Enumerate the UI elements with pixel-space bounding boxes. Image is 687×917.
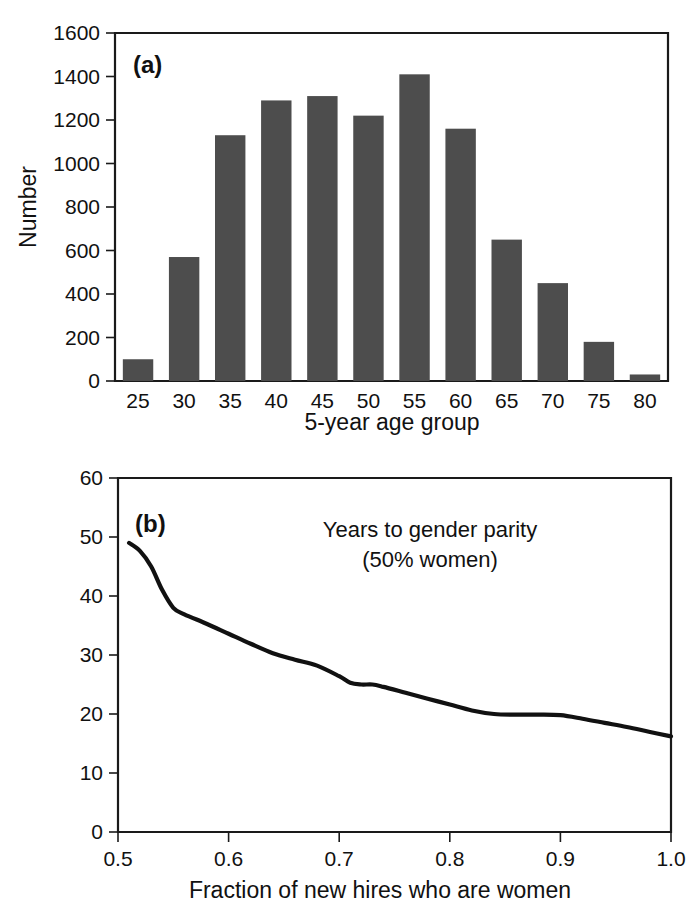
figure-container: 02004006008001000120014001600 2530354045… <box>0 0 687 917</box>
panel-b-y-ticks: 0102030405060 <box>80 466 118 843</box>
panel-a-bar <box>353 116 383 381</box>
panel-a-y-axis-title: Number <box>15 166 41 248</box>
panel-a-x-tick-label: 65 <box>495 389 518 412</box>
panel-a-svg: 02004006008001000120014001600 2530354045… <box>0 0 687 460</box>
panel-a-bar <box>630 374 660 381</box>
panel-b-line-chart: 0102030405060 0.50.60.70.80.91.0 Years t… <box>0 460 687 917</box>
panel-a-y-ticks: 02004006008001000120014001600 <box>53 21 115 392</box>
panel-a-bar <box>538 283 568 381</box>
panel-a-y-tick-label: 600 <box>65 239 100 262</box>
panel-b-svg: 0102030405060 0.50.60.70.80.91.0 Years t… <box>0 460 687 917</box>
panel-a-x-tick-label: 25 <box>126 389 149 412</box>
panel-a-x-axis-title: 5-year age group <box>304 409 479 435</box>
panel-a-y-tick-label: 1600 <box>53 21 100 44</box>
panel-a-bar <box>261 100 291 381</box>
panel-a-x-tick-label: 30 <box>172 389 195 412</box>
panel-a-x-tick-label: 40 <box>265 389 288 412</box>
panel-a-bar <box>492 240 522 381</box>
panel-a-bar <box>123 359 153 381</box>
panel-a-y-tick-label: 400 <box>65 282 100 305</box>
panel-a-y-tick-label: 1000 <box>53 152 100 175</box>
panel-b-y-tick-label: 20 <box>80 702 103 725</box>
panel-a-bar <box>584 342 614 381</box>
panel-b-annotation-line2: (50% women) <box>362 547 498 572</box>
panel-a-bar <box>399 74 429 381</box>
panel-b-x-tick-label: 0.5 <box>103 847 132 870</box>
panel-b-x-tick-label: 0.9 <box>546 847 575 870</box>
panel-b-y-tick-label: 0 <box>91 820 103 843</box>
panel-b-y-tick-label: 40 <box>80 584 103 607</box>
panel-b-x-tick-label: 1.0 <box>656 847 685 870</box>
panel-b-x-ticks: 0.50.60.70.80.91.0 <box>103 832 685 870</box>
panel-a-y-tick-label: 800 <box>65 195 100 218</box>
panel-b-x-tick-label: 0.7 <box>325 847 354 870</box>
panel-a-x-tick-label: 35 <box>219 389 242 412</box>
panel-b-x-axis-title: Fraction of new hires who are women <box>189 877 571 903</box>
panel-a-label: (a) <box>133 51 162 78</box>
panel-a-bars <box>123 74 660 381</box>
panel-b-y-tick-label: 30 <box>80 643 103 666</box>
panel-a-bar <box>445 129 475 381</box>
panel-a-x-tick-label: 80 <box>633 389 656 412</box>
panel-b-x-tick-label: 0.6 <box>214 847 243 870</box>
panel-b-label: (b) <box>135 510 166 537</box>
panel-a-bar-chart: 02004006008001000120014001600 2530354045… <box>0 0 687 460</box>
panel-a-y-tick-label: 0 <box>88 369 100 392</box>
panel-b-annotation-line1: Years to gender parity <box>323 517 537 542</box>
panel-a-x-tick-label: 75 <box>587 389 610 412</box>
panel-b-y-tick-label: 50 <box>80 525 103 548</box>
panel-b-y-tick-label: 10 <box>80 761 103 784</box>
panel-a-bar <box>215 135 245 381</box>
panel-a-y-tick-label: 1400 <box>53 65 100 88</box>
panel-a-bar <box>307 96 337 381</box>
panel-b-x-tick-label: 0.8 <box>435 847 464 870</box>
panel-b-y-tick-label: 60 <box>80 466 103 489</box>
panel-a-bar <box>169 257 199 381</box>
panel-a-y-tick-label: 1200 <box>53 108 100 131</box>
panel-a-x-tick-label: 70 <box>541 389 564 412</box>
panel-a-y-tick-label: 200 <box>65 326 100 349</box>
